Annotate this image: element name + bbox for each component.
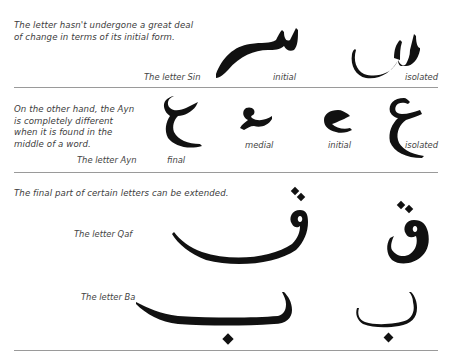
ayn-final-glyph [160, 94, 204, 150]
ba-extended-glyph [134, 292, 294, 352]
qaf-extended-glyph [172, 186, 312, 268]
ayn-initial-label: initial [328, 140, 351, 150]
section-divider [14, 172, 438, 173]
ayn-description: On the other hand, the Ayn is completely… [14, 104, 138, 150]
sin-letter-label: The letter Sin [144, 72, 201, 82]
ba-isolated-glyph [355, 290, 417, 350]
ayn-letter-label: The letter Ayn [77, 155, 137, 165]
section-divider [14, 87, 438, 88]
ayn-medial-glyph [238, 106, 274, 132]
sin-initial-label: initial [273, 72, 296, 82]
ayn-final-label: final [167, 155, 185, 165]
section-divider [14, 350, 438, 351]
ayn-medial-label: medial [245, 140, 273, 150]
qaf-letter-label: The letter Qaf [74, 229, 132, 239]
qaf-isolated-glyph [386, 200, 436, 268]
ayn-isolated-glyph [382, 96, 426, 162]
ayn-initial-glyph [318, 108, 354, 136]
ba-letter-label: The letter Ba [81, 292, 135, 302]
ayn-isolated-label: isolated [405, 140, 438, 150]
sin-description: The letter hasn't undergone a great deal… [14, 20, 194, 43]
sin-isolated-label: isolated [405, 72, 438, 82]
